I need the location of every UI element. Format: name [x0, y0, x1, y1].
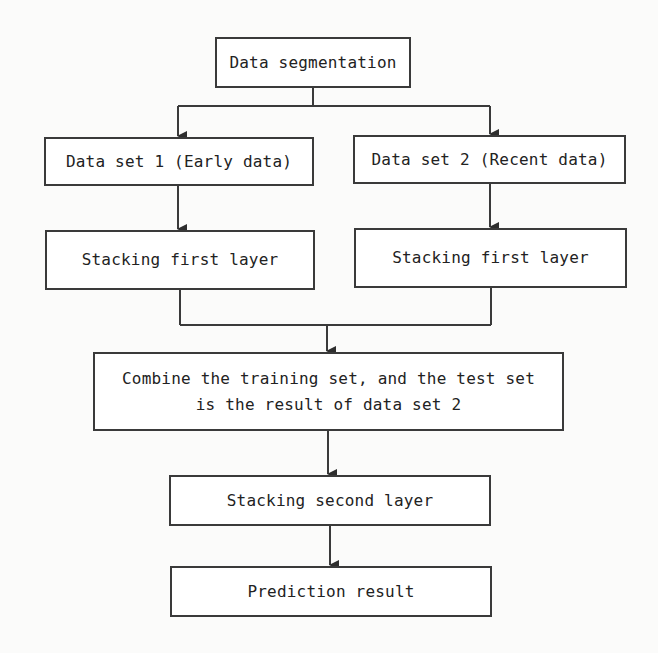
- node-label: Stacking first layer: [82, 247, 279, 273]
- node-label: Data segmentation: [229, 50, 396, 76]
- node-label: Prediction result: [247, 579, 414, 605]
- node-label: Data set 1 (Early data): [66, 149, 292, 175]
- node-combine-sets: Combine the training set, and the test s…: [93, 352, 564, 431]
- node-stacking-first-layer-right: Stacking first layer: [354, 228, 627, 288]
- node-prediction-result: Prediction result: [170, 566, 492, 617]
- node-label: Stacking second layer: [227, 488, 434, 514]
- node-stacking-first-layer-left: Stacking first layer: [45, 230, 315, 290]
- node-data-set-2: Data set 2 (Recent data): [353, 135, 626, 184]
- node-label-line2: is the result of data set 2: [196, 392, 462, 418]
- node-label: Data set 2 (Recent data): [372, 147, 608, 173]
- connector-lines: [0, 0, 658, 653]
- node-label-line1: Combine the training set, and the test s…: [122, 366, 535, 392]
- node-label: Stacking first layer: [392, 245, 589, 271]
- node-data-segmentation: Data segmentation: [215, 37, 411, 88]
- node-stacking-second-layer: Stacking second layer: [169, 475, 491, 526]
- flowchart-canvas: Data segmentation Data set 1 (Early data…: [0, 0, 658, 653]
- node-data-set-1: Data set 1 (Early data): [44, 137, 314, 186]
